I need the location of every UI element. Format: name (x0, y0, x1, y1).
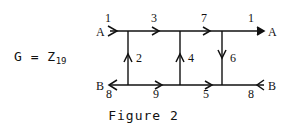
edge-weight-bottom-8b: 8 (245, 88, 257, 100)
edge-weight-top-7: 7 (198, 12, 210, 24)
vertical-edge-6 (218, 31, 226, 85)
top-rail (108, 26, 264, 36)
figure-container: G = Z19 (0, 0, 287, 132)
node-label-a-right: A (268, 26, 277, 38)
edge-weight-bottom-8: 8 (103, 88, 115, 100)
bottom-rail (109, 80, 264, 90)
edge-weight-vertical-6: 6 (227, 52, 239, 64)
figure-caption: Figure 2 (0, 108, 287, 123)
edge-weight-bottom-5: 5 (200, 88, 212, 100)
node-label-b-right: B (268, 80, 276, 92)
edge-weight-vertical-4: 4 (185, 52, 197, 64)
top-edge-1b-arrowhead (257, 27, 264, 35)
node-label-a-left: A (96, 26, 105, 38)
edge-weight-top-1b: 1 (245, 12, 257, 24)
edge-weight-bottom-9: 9 (150, 88, 162, 100)
edge-weight-vertical-2: 2 (133, 52, 145, 64)
edge-weight-top-3: 3 (148, 12, 160, 24)
vertical-edge-4 (176, 31, 184, 85)
vertical-edge-2 (124, 31, 132, 85)
edge-weight-top-1: 1 (102, 12, 114, 24)
